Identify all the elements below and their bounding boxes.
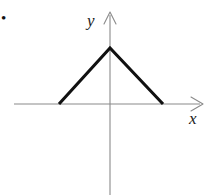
- x-axis-label: x: [188, 109, 197, 128]
- tent-function-curve: [59, 48, 163, 104]
- y-axis-label: y: [85, 11, 95, 30]
- graph-canvas: y x: [0, 0, 211, 195]
- figure-container: • y x: [0, 0, 211, 195]
